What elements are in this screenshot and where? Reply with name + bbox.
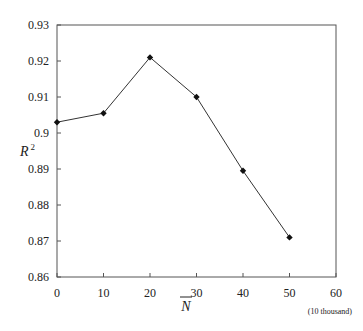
y-tick-label: 0.87 bbox=[28, 234, 49, 248]
x-axis-title: N bbox=[180, 299, 191, 314]
line-chart: 0.860.870.880.890.90.910.920.93 01020304… bbox=[0, 0, 363, 331]
data-point-marker bbox=[286, 234, 292, 240]
x-tick-label: 50 bbox=[284, 286, 296, 300]
data-series bbox=[54, 54, 293, 240]
x-tick-label: 0 bbox=[54, 286, 60, 300]
x-tick-label: 20 bbox=[144, 286, 156, 300]
x-tick-label: 40 bbox=[237, 286, 249, 300]
y-tick-label: 0.93 bbox=[28, 18, 49, 32]
y-tick-label: 0.92 bbox=[28, 54, 49, 68]
y-tick-label: 0.89 bbox=[28, 162, 49, 176]
x-tick-label: 10 bbox=[98, 286, 110, 300]
plot-frame bbox=[57, 25, 336, 277]
y-tick-label: 0.86 bbox=[28, 270, 49, 284]
y-tick-label: 0.9 bbox=[34, 126, 49, 140]
y-tick-label: 0.91 bbox=[28, 90, 49, 104]
x-tick-label: 30 bbox=[191, 286, 203, 300]
y-axis-title: R2 bbox=[19, 142, 35, 159]
x-axis-unit: (10 thousand) bbox=[308, 307, 353, 316]
y-tick-label: 0.88 bbox=[28, 198, 49, 212]
data-point-marker bbox=[54, 119, 60, 125]
data-point-marker bbox=[240, 168, 246, 174]
series-line bbox=[57, 57, 290, 237]
x-tick-label: 60 bbox=[330, 286, 342, 300]
